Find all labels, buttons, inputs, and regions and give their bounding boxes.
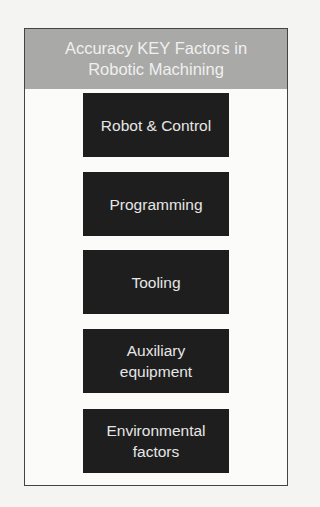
factor-environmental-factors: Environmental factors bbox=[83, 409, 229, 473]
title-line-1: Accuracy KEY Factors in bbox=[25, 38, 287, 59]
title-line-2: Robotic Machining bbox=[25, 59, 287, 80]
factor-label: Programming bbox=[109, 194, 202, 215]
factor-label: Robot & Control bbox=[101, 115, 211, 136]
factor-label-line: equipment bbox=[120, 361, 192, 382]
factor-label-line: factors bbox=[106, 441, 205, 462]
factor-programming: Programming bbox=[83, 172, 229, 236]
factor-tooling: Tooling bbox=[83, 250, 229, 314]
factor-label-line: Environmental bbox=[106, 420, 205, 441]
diagram-frame: Accuracy KEY Factors in Robotic Machinin… bbox=[24, 28, 288, 486]
factor-label-line: Auxiliary bbox=[120, 340, 192, 361]
diagram-title: Accuracy KEY Factors in Robotic Machinin… bbox=[25, 29, 287, 89]
factor-auxiliary-equipment: Auxiliary equipment bbox=[83, 329, 229, 393]
factor-robot-control: Robot & Control bbox=[83, 93, 229, 157]
factor-label: Tooling bbox=[131, 272, 180, 293]
